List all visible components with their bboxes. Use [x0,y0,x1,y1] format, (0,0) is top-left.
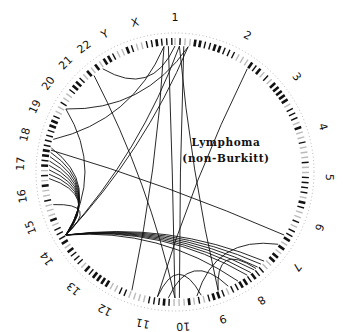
chromosome-label-12: 12 [96,301,114,319]
chromosome-label-16: 16 [15,188,30,204]
chromosome-label-3: 3 [289,70,304,84]
translocation-link [157,69,247,297]
chromosome-ring [36,33,314,311]
chromosome-label-13: 13 [64,279,83,298]
translocation-link [132,46,164,290]
chromosome-label-y: Y [98,27,111,42]
chromosome-label-21: 21 [56,53,75,72]
translocation-link [66,233,254,270]
chromosome-label-22: 22 [75,38,94,57]
diagram-title-line2: (non-Burkitt) [182,152,269,164]
chromosome-label-19: 19 [26,98,44,116]
chromosome-label-1: 1 [172,11,179,24]
chromosome-label-8: 8 [255,293,268,308]
chromosome-label-x: X [130,15,141,30]
chromosome-label-5: 5 [323,174,336,181]
chromosome-label-9: 9 [217,312,228,327]
chromosome-label-10: 10 [176,319,191,332]
translocation-links [49,46,284,298]
circular-genome-diagram: 12345678910111213141516171819202122YX Ly… [0,0,343,332]
chromosome-label-4: 4 [316,122,330,132]
chromosome-label-17: 17 [14,157,28,172]
chromosome-label-14: 14 [38,249,57,268]
chromosome-label-15: 15 [22,219,39,237]
chromosome-label-20: 20 [39,74,58,93]
translocation-link [53,205,80,235]
translocation-link [179,46,218,290]
chromosome-label-6: 6 [312,222,327,233]
chromosome-label-7: 7 [289,260,304,274]
translocation-link [51,148,79,235]
chromosome-label-11: 11 [135,315,151,331]
diagram-title-line1: Lymphoma [192,136,261,148]
chromosome-label-2: 2 [241,28,253,43]
chromosome-label-18: 18 [17,126,33,143]
